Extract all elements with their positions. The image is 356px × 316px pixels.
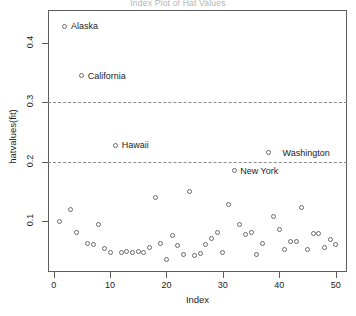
x-tick-30 <box>223 272 224 278</box>
point-label-washington: Washington <box>283 148 330 157</box>
data-point <box>198 251 203 256</box>
x-tick-label-10: 10 <box>105 280 115 290</box>
x-tick-label-40: 40 <box>274 280 284 290</box>
data-point <box>260 241 265 246</box>
y-tick-0.2 <box>42 162 48 163</box>
x-tick-10 <box>110 272 111 278</box>
y-tick-label-0.3: 0.3 <box>25 93 35 109</box>
index-plot-of-hat-values: Index Plot of Hat Values 0.10.20.30.4 01… <box>0 0 356 316</box>
data-point <box>277 227 282 232</box>
data-point <box>119 250 124 255</box>
data-point <box>294 239 299 244</box>
data-point <box>136 249 141 254</box>
data-point <box>181 252 186 257</box>
data-point <box>57 219 62 224</box>
data-point <box>249 230 254 235</box>
x-axis-label: Index <box>48 294 347 305</box>
data-point <box>215 230 220 235</box>
data-point <box>243 232 248 237</box>
data-point <box>164 257 169 262</box>
y-tick-0.4 <box>42 43 48 44</box>
data-point <box>170 233 175 238</box>
data-point <box>91 242 96 247</box>
data-point <box>333 242 338 247</box>
data-point <box>187 189 192 194</box>
plot-frame <box>48 10 347 272</box>
data-point <box>311 231 316 236</box>
data-point <box>192 253 197 258</box>
point-label-hawaii: Hawaii <box>122 141 149 150</box>
data-point <box>108 250 113 255</box>
reference-line-0.30 <box>48 102 347 103</box>
data-point <box>85 241 90 246</box>
chart-title: Index Plot of Hat Values <box>0 0 356 8</box>
x-tick-50 <box>336 272 337 278</box>
x-tick-label-50: 50 <box>331 280 341 290</box>
x-tick-20 <box>166 272 167 278</box>
point-label-alaska: Alaska <box>71 22 98 31</box>
y-tick-label-0.4: 0.4 <box>25 34 35 50</box>
x-tick-label-0: 0 <box>51 280 56 290</box>
y-tick-0.1 <box>42 221 48 222</box>
point-label-new-york: New York <box>240 166 278 175</box>
x-tick-40 <box>279 272 280 278</box>
data-point <box>232 168 237 173</box>
data-point <box>74 230 79 235</box>
reference-line-0.20 <box>48 162 347 163</box>
y-tick-label-0.2: 0.2 <box>25 153 35 169</box>
data-point <box>305 247 310 252</box>
data-point <box>153 195 158 200</box>
x-tick-0 <box>54 272 55 278</box>
y-tick-label-0.1: 0.1 <box>25 212 35 228</box>
data-point <box>322 245 327 250</box>
x-tick-label-20: 20 <box>161 280 171 290</box>
data-point <box>113 143 118 148</box>
data-point <box>68 207 73 212</box>
point-label-california: California <box>88 71 126 80</box>
y-axis-label: hatvalues(fit) <box>7 97 18 177</box>
y-tick-0.3 <box>42 102 48 103</box>
data-point <box>328 237 333 242</box>
x-tick-label-30: 30 <box>218 280 228 290</box>
